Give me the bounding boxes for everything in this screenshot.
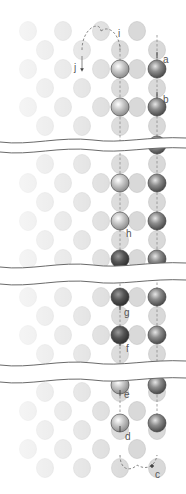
highlighted-atom: [111, 98, 129, 116]
highlighted-atom: [148, 212, 166, 230]
highlighted-atom: [148, 326, 166, 344]
label-f: f: [126, 343, 129, 354]
lattice-diagram: a b c d e f g h i j: [0, 0, 186, 494]
label-g: g: [124, 307, 130, 318]
label-j: j: [73, 62, 76, 73]
label-i: i: [118, 28, 120, 39]
label-e: e: [124, 389, 130, 400]
highlighted-atom: [111, 174, 129, 192]
label-b: b: [163, 94, 169, 105]
label-c: c: [155, 469, 160, 480]
highlighted-atom: [148, 414, 166, 432]
label-d: d: [125, 431, 131, 442]
highlighted-atom: [111, 288, 129, 306]
label-h: h: [126, 228, 132, 239]
highlighted-atom: [148, 174, 166, 192]
highlighted-atom: [148, 288, 166, 306]
label-a: a: [163, 54, 169, 65]
highlighted-atom: [111, 60, 129, 78]
